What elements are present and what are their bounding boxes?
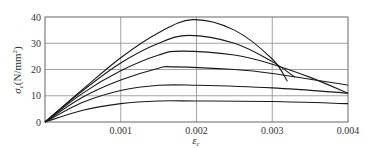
x-tick-label: 0.001 (110, 125, 133, 136)
x-axis-tick-labels: 0.0010.0020.0030.004 (110, 125, 360, 136)
y-tick-label: 40 (31, 12, 41, 23)
y-axis-tick-labels: 010203040 (31, 12, 41, 128)
x-tick-label: 0.003 (261, 125, 284, 136)
y-tick-label: 0 (36, 117, 41, 128)
stress-strain-chart: 010203040 0.0010.0020.0030.004 σc(N/mm2)… (0, 0, 374, 148)
y-tick-label: 20 (31, 64, 41, 75)
y-axis-unit: (N/mm (11, 53, 24, 85)
y-tick-label: 30 (31, 38, 41, 49)
x-tick-label: 0.004 (337, 125, 360, 136)
y-axis-title: σc(N/mm2) (11, 46, 25, 94)
x-axis-title: εc (192, 134, 200, 148)
y-tick-label: 10 (31, 90, 41, 101)
curve-2-line (45, 35, 295, 122)
x-axis-subscript: c (197, 140, 201, 148)
y-axis-unit-close: ) (11, 46, 24, 50)
grid-lines (45, 17, 348, 122)
